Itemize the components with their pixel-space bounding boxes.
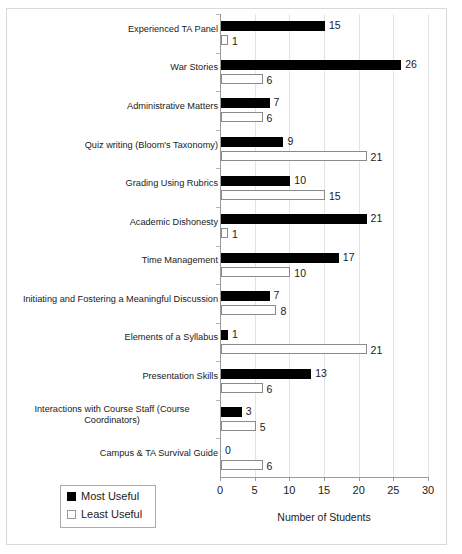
bar-least-useful[interactable]: [221, 112, 263, 122]
chart-legend: Most Useful Least Useful: [60, 485, 156, 528]
category-label: War Stories: [6, 62, 218, 73]
bar-least-useful[interactable]: [221, 35, 228, 45]
bar-value-most-useful: 0: [225, 445, 231, 456]
bar-least-useful[interactable]: [221, 305, 276, 315]
bar-least-useful[interactable]: [221, 421, 256, 431]
y-tick-8: [216, 323, 220, 324]
legend-item-most-useful[interactable]: Most Useful: [67, 490, 139, 502]
bar-value-least-useful: 6: [267, 75, 273, 86]
bar-most-useful[interactable]: [221, 253, 339, 263]
gridline-x-30: [428, 14, 429, 477]
x-tick-label-5: 5: [240, 484, 270, 496]
bar-value-most-useful: 3: [246, 406, 252, 417]
category-label-line: Administrative Matters: [6, 101, 218, 112]
bar-value-least-useful: 15: [329, 191, 341, 202]
bar-value-least-useful: 1: [232, 36, 238, 47]
x-tick-20: [359, 477, 360, 481]
bar-most-useful[interactable]: [221, 176, 290, 186]
gridline-x-10: [289, 14, 290, 477]
x-tick-label-0: 0: [205, 484, 235, 496]
x-tick-5: [255, 477, 256, 481]
category-label: Experienced TA Panel: [6, 24, 218, 35]
bar-value-least-useful: 8: [280, 306, 286, 317]
category-label: Presentation Skills: [6, 371, 218, 382]
bar-least-useful[interactable]: [221, 383, 263, 393]
category-label: Elements of a Syllabus: [6, 332, 218, 343]
x-tick-label-10: 10: [274, 484, 304, 496]
bar-value-most-useful: 10: [294, 175, 306, 186]
category-label-line: Time Management: [6, 255, 218, 266]
legend-label-least-useful: Least Useful: [81, 508, 142, 520]
bar-most-useful[interactable]: [221, 214, 367, 224]
legend-swatch-least-useful-icon: [67, 510, 76, 519]
bar-most-useful[interactable]: [221, 369, 311, 379]
bar-most-useful[interactable]: [221, 330, 228, 340]
bar-value-least-useful: 5: [260, 422, 266, 433]
bar-value-most-useful: 9: [287, 136, 293, 147]
x-tick-label-20: 20: [344, 484, 374, 496]
bar-value-most-useful: 26: [405, 59, 417, 70]
y-tick-4: [216, 168, 220, 169]
category-label-line: Presentation Skills: [6, 371, 218, 382]
bar-value-least-useful: 6: [267, 461, 273, 472]
x-tick-15: [324, 477, 325, 481]
bar-least-useful[interactable]: [221, 460, 263, 470]
y-tick-11: [216, 438, 220, 439]
y-tick-2: [216, 91, 220, 92]
category-label: Interactions with Course Staff (CourseCo…: [6, 404, 218, 426]
category-label-line: Interactions with Course Staff (Course: [6, 404, 218, 415]
bar-most-useful[interactable]: [221, 21, 325, 31]
bar-value-most-useful: 21: [371, 213, 383, 224]
bar-most-useful[interactable]: [221, 291, 270, 301]
category-label: Academic Dishonesty: [6, 217, 218, 228]
category-label: Initiating and Fostering a Meaningful Di…: [6, 294, 218, 305]
category-label-line: Quiz writing (Bloom's Taxonomy): [6, 140, 218, 151]
bar-least-useful[interactable]: [221, 344, 367, 354]
gridline-x-15: [324, 14, 325, 477]
legend-label-most-useful: Most Useful: [81, 490, 139, 502]
bar-value-least-useful: 6: [267, 384, 273, 395]
bar-least-useful[interactable]: [221, 190, 325, 200]
chart-figure: Experienced TA PanelWar StoriesAdministr…: [0, 0, 462, 554]
y-tick-10: [216, 400, 220, 401]
category-label: Grading Using Rubrics: [6, 178, 218, 189]
category-label-column: Experienced TA PanelWar StoriesAdministr…: [4, 14, 218, 477]
category-label-line: Experienced TA Panel: [6, 24, 218, 35]
bar-value-most-useful: 13: [315, 368, 327, 379]
bar-value-most-useful: 7: [274, 290, 280, 301]
bar-value-least-useful: 21: [371, 345, 383, 356]
y-tick-3: [216, 130, 220, 131]
bar-least-useful[interactable]: [221, 228, 228, 238]
bar-most-useful[interactable]: [221, 137, 283, 147]
category-label-line: Elements of a Syllabus: [6, 332, 218, 343]
category-label: Administrative Matters: [6, 101, 218, 112]
x-tick-0: [220, 477, 221, 481]
y-tick-1: [216, 53, 220, 54]
bar-value-most-useful: 17: [343, 252, 355, 263]
y-tick-6: [216, 246, 220, 247]
bar-most-useful[interactable]: [221, 60, 401, 70]
gridline-x-20: [359, 14, 360, 477]
x-tick-30: [428, 477, 429, 481]
y-tick-9: [216, 361, 220, 362]
bar-value-most-useful: 1: [232, 329, 238, 340]
legend-swatch-most-useful-icon: [67, 492, 76, 501]
bar-value-least-useful: 21: [371, 152, 383, 163]
category-label: Quiz writing (Bloom's Taxonomy): [6, 140, 218, 151]
bar-least-useful[interactable]: [221, 74, 263, 84]
bar-least-useful[interactable]: [221, 267, 290, 277]
x-tick-10: [289, 477, 290, 481]
gridline-x-25: [393, 14, 394, 477]
bar-least-useful[interactable]: [221, 151, 367, 161]
category-label: Campus & TA Survival Guide: [6, 448, 218, 459]
bar-most-useful[interactable]: [221, 407, 242, 417]
bar-value-least-useful: 6: [267, 113, 273, 124]
category-label-line: Coordinators): [6, 415, 218, 426]
bar-value-least-useful: 1: [232, 229, 238, 240]
bar-value-least-useful: 10: [294, 268, 306, 279]
category-label: Time Management: [6, 255, 218, 266]
category-label-line: Campus & TA Survival Guide: [6, 448, 218, 459]
bar-value-most-useful: 15: [329, 20, 341, 31]
legend-item-least-useful[interactable]: Least Useful: [67, 508, 142, 520]
bar-most-useful[interactable]: [221, 98, 270, 108]
